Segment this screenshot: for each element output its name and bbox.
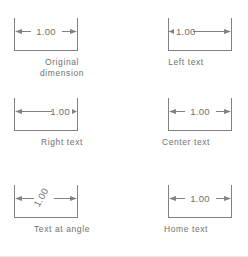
arrowhead-left-icon — [15, 109, 22, 114]
dimension-example-caption: Home text — [124, 224, 248, 235]
dimension-example-caption: Right text — [0, 137, 124, 148]
arrowhead-right-icon — [72, 109, 77, 114]
dimension-example-right-text: 1.00 Right text — [0, 86, 124, 172]
arrowhead-left-icon — [169, 196, 176, 201]
dimension-example-caption: Left text — [124, 57, 248, 68]
arrowhead-right-icon — [224, 29, 231, 34]
arrowhead-left-icon — [15, 29, 22, 34]
dimension-example-text-at-angle: 1.00 Text at angle — [0, 172, 124, 257]
dimension-example-original-dimension: 1.00 Original dimension — [0, 0, 124, 86]
dimension-text-placement-figure: 1.00 Original dimension 1.00 Left text — [0, 0, 248, 257]
dimension-value-text: 1.00 — [176, 26, 196, 37]
dimension-value-text: 1.00 — [36, 26, 56, 37]
arrowhead-right-icon — [70, 196, 77, 201]
arrowhead-left-icon — [169, 109, 176, 114]
arrowhead-right-icon — [224, 109, 231, 114]
dimension-drawing-left-text: 1.00 — [124, 0, 248, 60]
arrowhead-right-icon — [224, 196, 231, 201]
dimension-example-caption: Original dimension — [0, 57, 124, 78]
dimension-value-text: 1.00 — [50, 106, 70, 117]
dimension-value-text: 1.00 — [190, 106, 210, 117]
dimension-drawing-home-text: 1.00 — [124, 172, 248, 232]
arrowhead-right-icon — [70, 29, 77, 34]
dimension-example-center-text: 1.00 Center text — [124, 86, 248, 172]
dimension-value-text-rotated: 1.00 — [31, 186, 50, 209]
dimension-example-left-text: 1.00 Left text — [124, 0, 248, 86]
dimension-value-text: 1.00 — [190, 193, 210, 204]
dimension-example-caption: Center text — [124, 137, 248, 148]
dimension-example-home-text: 1.00 Home text — [124, 172, 248, 257]
arrowhead-left-icon — [15, 196, 22, 201]
dimension-drawing-text-at-angle: 1.00 — [0, 172, 124, 232]
dimension-example-caption: Text at angle — [0, 224, 124, 235]
dimension-drawing-original-dimension: 1.00 — [0, 0, 124, 60]
arrowhead-left-icon — [169, 29, 174, 34]
